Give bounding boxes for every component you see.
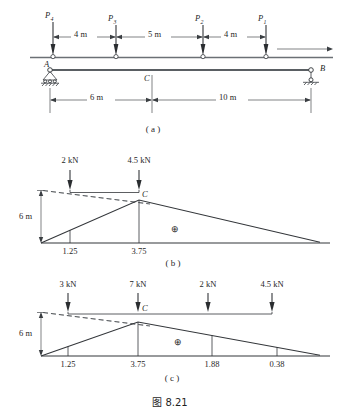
support-a-roller-left [44,80,47,83]
spacing-2-arrow-left [116,35,122,39]
spacing-dim-2: 5 m [116,29,203,40]
spacing-dim-3: 4 m [203,29,266,40]
panel-b-load-1: 2 kN [62,155,79,190]
panel-c-sign-marker: ⊕ [174,337,182,347]
panel-c-ordinate-2-label: 3.75 [131,359,146,369]
load-p4-wheel [51,55,55,59]
panel-b-load-2-arrowhead [136,180,141,190]
panel-c-height-dim: 6 m [19,312,45,356]
panel-c-load-3-arrowhead [205,302,210,312]
panel-c-load-train-bar [68,312,272,314]
spacing-3-arrow-right [260,35,266,39]
load-p1-label: P [257,13,263,23]
panel-b-load-1-arrowhead [67,180,72,190]
panel-b-ordinate-2: 3.75 C [132,189,148,256]
panel-c-load-3: 2 kN [200,279,217,312]
panel-b-load-1-label: 2 kN [62,155,79,165]
spacing-3-arrow-left [203,35,209,39]
load-p4-arrowhead [51,44,56,56]
spacing-1-arrow-left [53,35,59,39]
support-a-pinned: A [41,59,59,86]
panel-c-load-1-label: 3 kN [60,279,77,289]
panel-c-load-1-arrowhead [65,302,70,312]
panel-b-height-arrow-top [39,190,43,196]
figure-8-21: P 4 P 3 P 2 P 1 [0,0,341,416]
spacing-3-label: 4 m [224,29,237,39]
support-a-ground-hatching [42,83,59,86]
load-p3-arrowhead [114,44,119,56]
load-p2-wheel [201,55,205,59]
load-p4: P 4 [44,10,55,59]
panel-c-load-4-arrowhead [269,302,274,312]
span-ac-arrow-left [50,98,56,102]
support-b-roller: B [303,63,325,85]
panel-c-caption: ( c ) [165,373,180,383]
figure-caption: 图 8.21 [152,397,187,408]
span-cb-arrow-left [152,98,158,102]
load-p3-wheel [114,55,118,59]
panel-a: P 4 P 3 P 2 P 1 [30,10,333,134]
support-a-roller-right [53,80,56,83]
span-ac-arrow-right [146,98,152,102]
panel-b-sign-marker: ⊕ [171,224,179,234]
panel-c-load-3-label: 2 kN [200,279,217,289]
load-p4-label: P [44,10,50,20]
panel-b-peak-label: C [142,189,148,199]
span-dimensions: 6 m 10 m [50,75,311,113]
node-b-label: B [320,63,325,73]
spacing-1-arrow-right [110,35,116,39]
node-c: C [144,73,150,83]
load-p4-subscript: 4 [51,16,54,22]
panel-b-caption: ( b ) [166,258,181,268]
panel-c-ordinate-3-label: 1.88 [205,359,220,369]
panel-c-load-2: 7 kN C [130,279,148,313]
panel-c: 3 kN 7 kN C 2 kN 4.5 kN [19,279,330,383]
node-c-label: C [144,73,150,83]
panel-b-ordinate-1-label: 1.25 [63,246,78,256]
support-b-roller [309,78,313,82]
span-cb-label: 10 m [219,92,237,102]
panel-c-height-arrow-top [39,312,43,318]
spacing-dim-1: 4 m [53,29,116,40]
travel-direction-arrow [277,47,333,52]
panel-c-ordinate-1: 1.25 [61,347,76,370]
panel-b-ordinate-2-label: 3.75 [132,246,147,256]
support-a-roller-mid [49,80,52,83]
travel-arrowhead [327,47,333,52]
span-ac-label: 6 m [90,92,103,102]
load-p3-subscript: 3 [113,19,117,25]
support-b-ground-hatching [304,82,317,85]
support-a-triangle [43,72,57,81]
panel-c-load-2-arrowhead [135,302,140,312]
load-p2-arrowhead [201,44,206,56]
spacing-1-label: 4 m [74,29,87,39]
load-p1-arrowhead [264,44,269,56]
panel-b-height-dim: 6 m [19,190,45,243]
node-b-hinge [309,68,314,73]
panel-a-caption: ( a ) [146,124,161,134]
panel-b-influence-line [41,200,320,243]
load-p2-label: P [194,13,200,23]
panel-c-load-4: 4.5 kN [260,279,283,312]
panel-c-ordinate-2: 3.75 [131,322,146,369]
load-p1-wheel [264,55,268,59]
panel-c-load-4-label: 4.5 kN [260,279,283,289]
load-p2-subscript: 2 [201,19,204,25]
panel-c-ordinate-3: 1.88 [205,336,220,370]
node-a-label: A [43,59,50,69]
panel-c-load-1: 3 kN [60,279,77,312]
panel-b-height-label: 6 m [19,211,32,221]
load-p3-label: P [107,13,113,23]
panel-c-height-label: 6 m [19,328,32,338]
panel-b-load-2: 4.5 kN [127,155,150,190]
panel-b-load-train-bar [70,190,139,193]
panel-c-ordinate-4-label: 0.38 [270,359,285,369]
panel-b-load-2-label: 4.5 kN [127,155,150,165]
spacing-2-arrow-right [197,35,203,39]
panel-c-ordinate-4: 0.38 [270,347,285,369]
panel-c-ordinate-1-label: 1.25 [61,359,76,369]
panel-b: 2 kN 4.5 kN 6 m 1.25 [19,155,330,268]
panel-c-load-2-label: 7 kN [130,279,147,289]
spacing-2-label: 5 m [148,29,161,39]
load-p1-subscript: 1 [264,19,267,25]
